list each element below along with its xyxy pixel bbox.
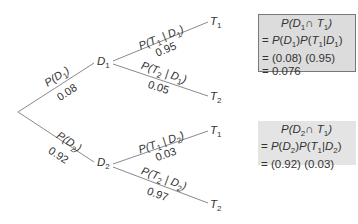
calc-box-d1-t1-line-values: = (0.08) (0.95)	[262, 52, 351, 65]
calc-box-d2-t1-line-formula: = P(D2)P(T1|D2)	[261, 140, 352, 157]
node-t2-upper: T2	[210, 90, 221, 105]
calc-box-d1-t1-line-result: = 0.076	[262, 65, 351, 78]
calc-box-d2-t1-line-values: = (0.92) (0.03)	[261, 158, 352, 171]
node-t1-lower: T1	[210, 124, 221, 139]
calc-box-d1-t1: P(D1∩ T1) = P(D1)P(T1|D1) = (0.08) (0.95…	[258, 14, 356, 72]
calc-box-d2-t1-title: P(D2∩ T1)	[261, 123, 352, 140]
calc-box-d1-t1-title: P(D1∩ T1)	[262, 17, 351, 34]
calc-box-d2-t1: P(D2∩ T1) = P(D2)P(T1|D2) = (0.92) (0.03…	[258, 121, 356, 165]
node-t1-upper: T1	[210, 15, 221, 30]
node-d2: D2	[97, 156, 110, 171]
calc-box-d1-t1-line-formula: = P(D1)P(T1|D1)	[262, 34, 351, 51]
node-d1: D1	[97, 55, 110, 70]
node-t2-lower: T2	[210, 198, 221, 213]
